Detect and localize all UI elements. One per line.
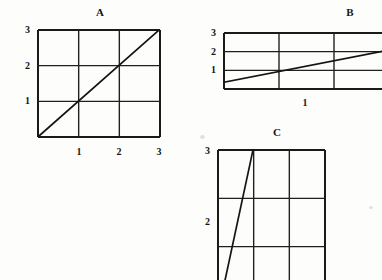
scan-speck xyxy=(369,206,373,209)
panel-c-plot xyxy=(0,0,382,280)
figure-root: A 3 2 1 1 2 3 B 3 2 1 1 C 3 2 xyxy=(0,0,382,280)
scan-speck xyxy=(200,135,205,139)
